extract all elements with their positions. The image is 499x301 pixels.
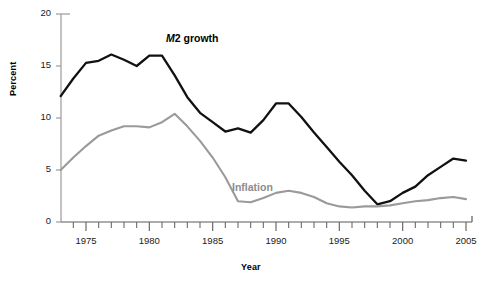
y-tick-label: 15 <box>23 59 51 70</box>
y-tick-label: 0 <box>23 215 51 226</box>
plot-area <box>0 0 499 301</box>
x-axis-title: Year <box>241 262 261 272</box>
series-label-m2-rest: 2 growth <box>175 32 219 44</box>
series-label-m2-italic-m: M <box>166 32 175 44</box>
y-tick-label: 20 <box>23 7 51 18</box>
x-tick-label: 2000 <box>383 235 423 246</box>
series-line-inflation <box>61 114 466 208</box>
series-label-m2-growth: M2 growth <box>166 32 219 44</box>
x-tick-label: 1990 <box>256 235 296 246</box>
chart-figure: Percent Year 05101520 197519801985199019… <box>0 0 499 301</box>
y-tick-label: 5 <box>23 163 51 174</box>
x-tick-label: 1975 <box>66 235 106 246</box>
x-tick-label: 1980 <box>129 235 169 246</box>
x-tick-label: 1995 <box>319 235 359 246</box>
x-tick-label: 2005 <box>446 235 486 246</box>
x-tick-label: 1985 <box>193 235 233 246</box>
series-label-inflation: Inflation <box>232 181 273 193</box>
y-axis-title: Percent <box>8 62 18 96</box>
y-tick-label: 10 <box>23 111 51 122</box>
minor-tick-marks <box>73 222 453 228</box>
